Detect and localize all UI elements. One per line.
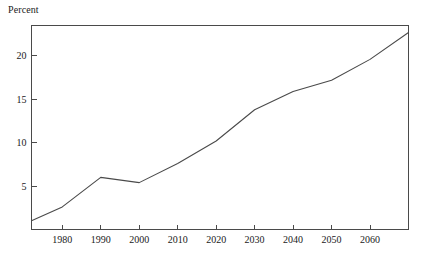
x-tick-label: 1990 (91, 234, 111, 245)
x-tick-label: 1980 (52, 234, 72, 245)
y-axis-tick-labels: 5101520 (17, 50, 27, 191)
x-axis-ticks (62, 225, 370, 230)
x-tick-label: 2000 (129, 234, 149, 245)
y-axis-ticks (32, 56, 37, 186)
x-tick-label: 2010 (168, 234, 188, 245)
data-series-line (32, 32, 409, 220)
y-tick-label: 15 (17, 94, 27, 105)
plot-frame (32, 26, 409, 230)
y-tick-label: 10 (17, 137, 27, 148)
x-tick-label: 2040 (283, 234, 303, 245)
x-tick-label: 2020 (206, 234, 226, 245)
x-tick-label: 2030 (245, 234, 265, 245)
x-tick-label: 2050 (322, 234, 342, 245)
y-tick-label: 5 (22, 181, 27, 192)
x-tick-label: 2060 (360, 234, 380, 245)
y-tick-label: 20 (17, 50, 27, 61)
x-axis-tick-labels: 198019902000201020202030204020502060 (52, 234, 380, 245)
line-chart-plot: 5101520 19801990200020102020203020402050… (0, 0, 425, 266)
chart-figure: Percent 5101520 198019902000201020202030… (0, 0, 425, 266)
